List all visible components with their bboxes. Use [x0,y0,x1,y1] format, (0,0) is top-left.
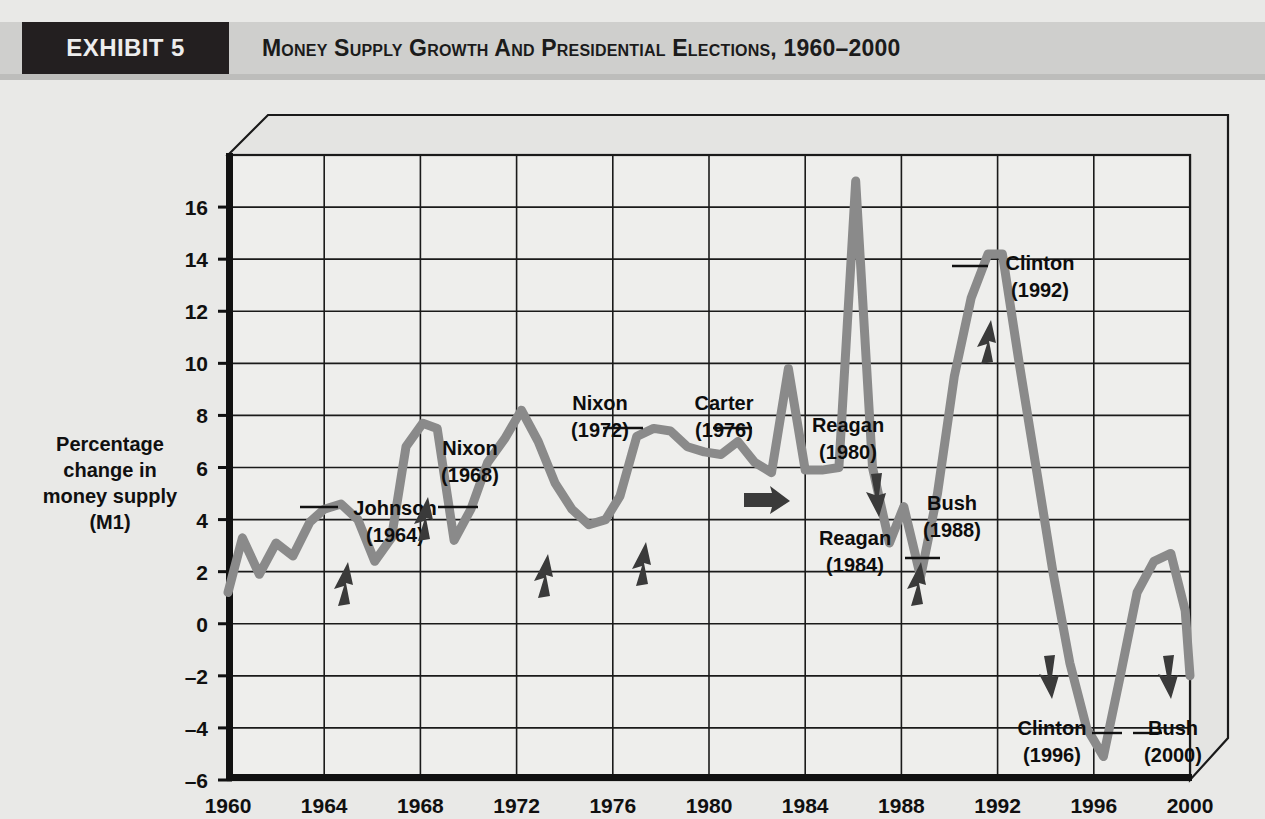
y-axis-title-line: money supply [43,485,178,507]
x-tick-label: 1972 [493,794,540,817]
x-axis-ticks: 1960196419681972197619801984198819921996… [205,794,1214,817]
annotation-year: (1988) [923,519,981,541]
x-tick-label: 1992 [974,794,1021,817]
annotation-year: (1984) [826,554,884,576]
y-tick-label: 2 [196,561,208,584]
x-tick-label: 1996 [1070,794,1117,817]
exhibit-number-label: EXHIBIT 5 [66,34,184,62]
y-axis-title: Percentagechange inmoney supply(M1) [43,433,178,533]
annotation-name: Bush [1148,717,1198,739]
annotation-name: Nixon [572,392,628,414]
x-tick-label: 1988 [878,794,925,817]
x-tick-label: 1980 [686,794,733,817]
annotation-year: (2000) [1144,744,1202,766]
annotation-year: (1996) [1023,744,1081,766]
y-tick-label: 10 [185,352,208,375]
y-axis-ticks: 1614121086420–2–4–6 [185,196,232,792]
y-axis-title-line: Percentage [56,433,164,455]
annotation-name: Clinton [1006,252,1075,274]
y-tick-label: –2 [185,665,208,688]
y-tick-label: 4 [196,509,208,532]
exhibit-page: EXHIBIT 5 Money Supply Growth and Presid… [0,0,1265,819]
annotation-name: Bush [927,492,977,514]
x-tick-label: 1968 [397,794,444,817]
annotation-name: Nixon [442,437,498,459]
x-tick-label: 1984 [782,794,829,817]
y-tick-label: 16 [185,196,208,219]
annotation-year: (1976) [695,419,753,441]
y-tick-label: 14 [185,248,209,271]
annotation-name: Carter [695,392,754,414]
x-tick-label: 2000 [1167,794,1214,817]
y-tick-label: –6 [185,769,208,792]
x-tick-label: 1964 [301,794,348,817]
annotation-year: (1968) [441,464,499,486]
exhibit-number-tag: EXHIBIT 5 [22,22,229,74]
y-axis-title-line: (M1) [89,511,130,533]
annotation-name: Reagan [819,527,891,549]
annotation-name: Reagan [812,414,884,436]
annotation-year: (1964) [366,524,424,546]
annotation-year: (1992) [1011,279,1069,301]
y-tick-label: –4 [185,717,209,740]
y-tick-label: 6 [196,457,208,480]
x-tick-label: 1960 [205,794,252,817]
annotation-year: (1980) [819,441,877,463]
money-supply-line-chart: 1614121086420–2–4–6 19601964196819721976… [0,80,1265,819]
exhibit-title: Money Supply Growth and Presidential Ele… [262,22,900,74]
y-tick-label: 0 [196,613,208,636]
chart-container: 1614121086420–2–4–6 19601964196819721976… [0,80,1265,819]
annotation-year: (1972) [571,419,629,441]
annotation-name: Clinton [1018,717,1087,739]
y-tick-label: 12 [185,300,208,323]
y-tick-label: 8 [196,404,208,427]
x-tick-label: 1976 [589,794,636,817]
y-axis-title-line: change in [63,459,156,481]
